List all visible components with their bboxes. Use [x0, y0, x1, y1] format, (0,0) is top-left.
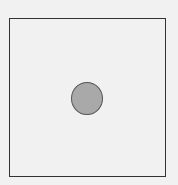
center-circle — [71, 82, 103, 115]
